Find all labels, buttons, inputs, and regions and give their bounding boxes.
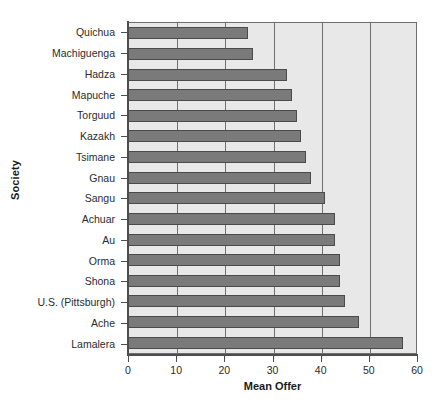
y-axis-tick-mark (121, 74, 127, 75)
bar-row (129, 332, 416, 353)
y-axis-tick-label: U.S. (Pittsburgh) (26, 292, 122, 313)
bar-chart: Society QuichuaMachiguengaHadzaMapucheTo… (0, 0, 447, 407)
x-axis-tick-mark (176, 356, 177, 362)
y-axis-tick-mark (121, 157, 127, 158)
y-axis-tick-label: Kazakh (26, 126, 122, 147)
plot-area (128, 22, 417, 354)
bar (128, 151, 306, 163)
x-axis-tick-label: 10 (170, 364, 182, 376)
bar (128, 213, 335, 225)
y-axis-tick-label: Au (26, 230, 122, 251)
y-axis-tick-mark (121, 261, 127, 262)
bar-row (129, 209, 416, 230)
y-axis-title: Society (4, 0, 26, 360)
bar (128, 295, 345, 307)
bar-row (129, 250, 416, 271)
x-axis-tick-mark (128, 356, 129, 362)
y-axis-tick-mark (121, 32, 127, 33)
bar-row (129, 44, 416, 65)
bar (128, 234, 335, 246)
bar-row (129, 312, 416, 333)
x-axis-tick-label: 0 (125, 364, 131, 376)
y-axis-tick-label: Ache (26, 313, 122, 334)
y-axis-tick-label: Orma (26, 250, 122, 271)
bar-row (129, 167, 416, 188)
bar (128, 275, 340, 287)
x-axis-tick-mark (417, 356, 418, 362)
y-axis-tick-label: Machiguenga (26, 43, 122, 64)
bar (128, 192, 325, 204)
bar (128, 48, 253, 60)
bar-row (129, 188, 416, 209)
y-axis-tick-label: Quichua (26, 22, 122, 43)
x-axis-tick-label: 40 (315, 364, 327, 376)
bar-row (129, 64, 416, 85)
y-axis-tick-label: Gnau (26, 167, 122, 188)
x-axis-tick-label: 30 (267, 364, 279, 376)
y-axis-tick-mark (121, 95, 127, 96)
y-axis-tick-mark (121, 136, 127, 137)
x-axis-tick-mark (273, 356, 274, 362)
bars-layer (129, 23, 416, 353)
y-axis-tick-mark (121, 53, 127, 54)
bar-row (129, 126, 416, 147)
y-axis-tick-mark (121, 240, 127, 241)
y-axis-line (127, 21, 129, 355)
y-axis-tick-label: Shona (26, 271, 122, 292)
x-axis-tick-label: 50 (363, 364, 375, 376)
bar (128, 254, 340, 266)
bar (128, 316, 359, 328)
x-axis-tick-mark (369, 356, 370, 362)
y-axis-tick-label: Tsimane (26, 147, 122, 168)
x-axis-title: Mean Offer (128, 380, 417, 392)
bar-row (129, 106, 416, 127)
x-axis-tick-label: 20 (218, 364, 230, 376)
bar (128, 337, 403, 349)
y-axis-tick-mark (121, 219, 127, 220)
x-axis-tick-label: 60 (411, 364, 423, 376)
bar (128, 69, 287, 81)
y-axis-tick-mark (121, 323, 127, 324)
bar-row (129, 291, 416, 312)
bar (128, 110, 297, 122)
bar-row (129, 147, 416, 168)
y-axis-tick-label: Achuar (26, 209, 122, 230)
bar-row (129, 23, 416, 44)
y-axis-tick-mark (121, 198, 127, 199)
y-axis-title-text: Society (9, 160, 21, 200)
bar (128, 130, 301, 142)
y-axis-tick-label: Mapuche (26, 84, 122, 105)
y-axis-tick-mark (121, 281, 127, 282)
x-axis-tick-mark (224, 356, 225, 362)
y-axis-tick-labels: QuichuaMachiguengaHadzaMapucheTorguudKaz… (26, 22, 122, 354)
y-axis-tick-label: Hadza (26, 64, 122, 85)
bar-row (129, 229, 416, 250)
bar (128, 89, 292, 101)
y-axis-tick-mark (121, 115, 127, 116)
y-axis-tick-mark (121, 302, 127, 303)
y-axis-tick-label: Torguud (26, 105, 122, 126)
y-axis-tick-label: Lamalera (26, 333, 122, 354)
bar (128, 27, 248, 39)
bar-row (129, 271, 416, 292)
bar (128, 172, 311, 184)
y-axis-tick-mark (121, 344, 127, 345)
x-axis-tick-mark (321, 356, 322, 362)
y-axis-tick-mark (121, 178, 127, 179)
y-axis-tick-label: Sangu (26, 188, 122, 209)
bar-row (129, 85, 416, 106)
